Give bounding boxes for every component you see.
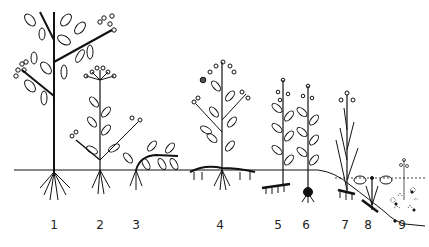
label-plant-5: 5 [271,218,285,232]
plant-9-submerged [390,159,418,223]
label-plant-4: 4 [213,218,227,232]
plant-3-creeping [122,139,180,190]
label-plant-8: 8 [361,218,375,232]
label-plant-7: 7 [338,218,352,232]
label-plant-3: 3 [129,218,143,232]
plant-8-aquatic [354,176,392,212]
label-plant-1: 1 [47,218,61,232]
plant-life-forms-diagram [0,0,429,247]
plant-5-rhizome [262,78,295,194]
label-plant-9: 9 [395,218,409,232]
plant-2-shrub [70,66,142,194]
plant-7-marsh [336,91,358,200]
plant-6-bulb [295,84,320,203]
label-plant-2: 2 [93,218,107,232]
label-plant-6: 6 [299,218,313,232]
